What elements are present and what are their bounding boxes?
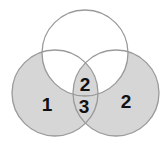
label-right-only: 2 — [121, 91, 132, 112]
label-center-top: 2 — [80, 74, 91, 95]
label-left-only: 1 — [42, 94, 53, 115]
venn-diagram: 1 2 3 2 — [0, 0, 167, 144]
label-center-bottom: 3 — [79, 96, 90, 117]
